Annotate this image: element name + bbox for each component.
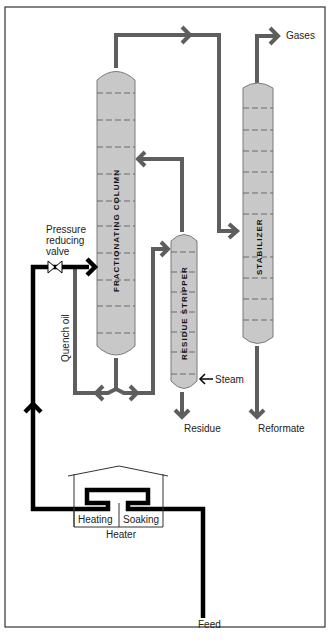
fractionating-column-label: FRACTIONATING COLUMN <box>112 169 121 292</box>
heater-label: Heater <box>106 529 137 540</box>
stabilizer-label: STABILIZER <box>255 218 264 275</box>
residue-label: Residue <box>184 423 221 434</box>
heating-label: Heating <box>78 514 112 525</box>
process-flow-diagram: FRACTIONATING COLUMN RESIDUE STRIPPER ST… <box>0 0 329 644</box>
pressure-valve-label-3: valve <box>46 246 70 257</box>
soaking-label: Soaking <box>123 514 159 525</box>
pressure-reducing-valve-icon <box>48 261 62 273</box>
residue-stripper-label: RESIDUE STRIPPER <box>180 266 189 360</box>
gases-label: Gases <box>286 30 315 41</box>
quench-oil-label: Quench oil <box>60 314 71 362</box>
residue-stripper: RESIDUE STRIPPER <box>171 235 197 389</box>
frame-border <box>5 7 325 627</box>
heater: Heating Soaking Heater <box>68 466 168 540</box>
pressure-valve-label-1: Pressure <box>46 224 86 235</box>
fractionating-column: FRACTIONATING COLUMN <box>97 72 135 356</box>
reformate-label: Reformate <box>258 423 305 434</box>
feed-label: Feed <box>198 619 221 630</box>
steam-label: Steam <box>215 374 244 385</box>
stabilizer: STABILIZER <box>243 83 273 344</box>
stripper-vapor-pipe <box>139 159 182 232</box>
pressure-valve-label-2: reducing <box>46 235 84 246</box>
